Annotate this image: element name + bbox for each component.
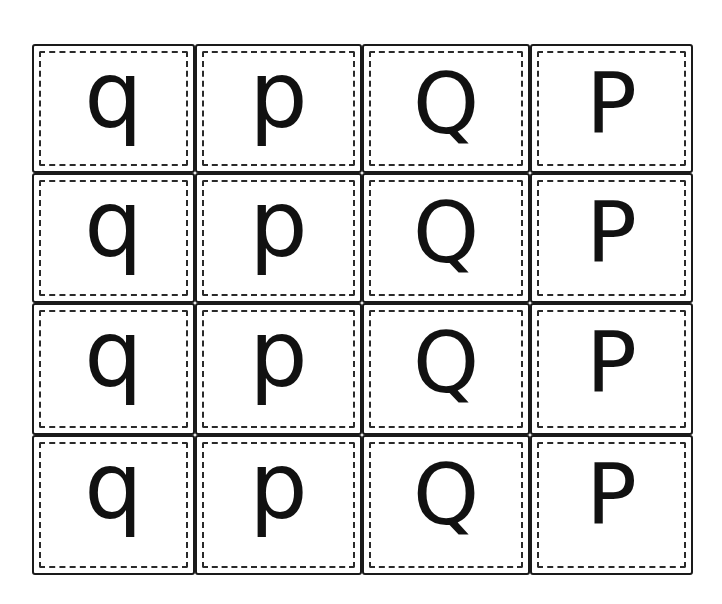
- cell-letter: p: [195, 441, 362, 533]
- quilt-cell: Q: [362, 173, 530, 303]
- letter-quilt-grid: qpQPqpQPqpQPqpQP: [0, 0, 722, 604]
- quilt-cell: Q: [362, 44, 530, 173]
- cell-letter: Q: [362, 191, 530, 275]
- cell-letter: P: [530, 62, 693, 146]
- quilt-cell: Q: [362, 435, 530, 575]
- quilt-cell: q: [32, 44, 195, 173]
- cell-letter: P: [530, 321, 693, 405]
- cell-letter: P: [530, 191, 693, 275]
- quilt-cell: p: [195, 303, 362, 435]
- cell-letter: Q: [362, 453, 530, 537]
- cell-letter: q: [32, 441, 195, 533]
- cell-letter: Q: [362, 62, 530, 146]
- quilt-cell: q: [32, 303, 195, 435]
- quilt-cell: Q: [362, 303, 530, 435]
- cell-letter: q: [32, 309, 195, 401]
- quilt-cell: P: [530, 173, 693, 303]
- quilt-cell: P: [530, 435, 693, 575]
- quilt-cell: p: [195, 173, 362, 303]
- quilt-cell: P: [530, 44, 693, 173]
- quilt-cell: p: [195, 435, 362, 575]
- quilt-cell: P: [530, 303, 693, 435]
- quilt-cell: q: [32, 173, 195, 303]
- cell-letter: q: [32, 50, 195, 142]
- cell-letter: P: [530, 453, 693, 537]
- cell-letter: q: [32, 179, 195, 271]
- cell-letter: p: [195, 309, 362, 401]
- quilt-cell: q: [32, 435, 195, 575]
- cell-letter: p: [195, 179, 362, 271]
- cell-letter: p: [195, 50, 362, 142]
- quilt-cell: p: [195, 44, 362, 173]
- cell-letter: Q: [362, 321, 530, 405]
